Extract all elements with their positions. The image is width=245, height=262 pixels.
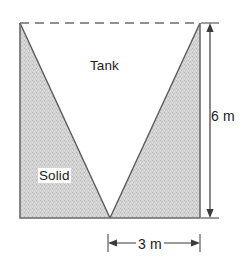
solid-region-label: Solid — [38, 168, 71, 183]
width-dimension-label: 3 m — [136, 236, 164, 252]
diagram-canvas — [0, 0, 245, 262]
tank-region-label: Tank — [90, 58, 119, 73]
tank-solid-diagram: Tank Solid 6 m 3 m — [0, 0, 245, 262]
height-dimension-label: 6 m — [211, 108, 235, 124]
